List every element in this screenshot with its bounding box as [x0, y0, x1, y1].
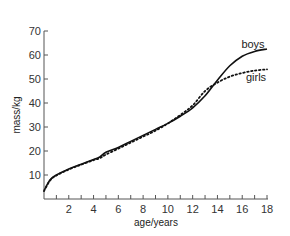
x-tick-label: 8 — [140, 203, 146, 215]
x-tick-label: 16 — [236, 203, 248, 215]
x-tick-label: 10 — [162, 203, 174, 215]
y-tick-label: 70 — [29, 25, 41, 37]
girls-label: girls — [246, 71, 267, 83]
boys-label: boys — [241, 38, 265, 50]
x-ticks: 24681012141618 — [56, 195, 273, 215]
x-tick-label: 4 — [90, 203, 96, 215]
x-tick-label: 14 — [211, 203, 223, 215]
x-axis-label: age/years — [134, 217, 178, 228]
x-tick-label: 6 — [115, 203, 121, 215]
growth-chart: 10203040506070 24681012141618 mass/kg ag… — [0, 0, 290, 236]
y-ticks: 10203040506070 — [29, 25, 48, 181]
x-tick-label: 18 — [261, 203, 273, 215]
y-axis-label: mass/kg — [11, 96, 22, 133]
y-tick-label: 20 — [29, 145, 41, 157]
y-tick-label: 40 — [29, 97, 41, 109]
y-tick-label: 50 — [29, 73, 41, 85]
x-tick-label: 12 — [187, 203, 199, 215]
x-tick-label: 2 — [66, 203, 72, 215]
boys-series-line — [44, 49, 267, 191]
y-tick-label: 60 — [29, 49, 41, 61]
y-tick-label: 30 — [29, 121, 41, 133]
y-tick-label: 10 — [29, 169, 41, 181]
girls-series-line — [44, 69, 267, 191]
